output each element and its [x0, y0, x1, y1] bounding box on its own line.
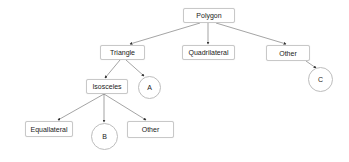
edge-polygon-triangle	[130, 23, 200, 44]
node-label: Isosceles	[92, 83, 121, 90]
node-equallateral: Equallateral	[25, 121, 73, 137]
edges-layer	[0, 0, 349, 162]
node-label: C	[318, 76, 323, 83]
edge-isosceles-equallateral	[58, 94, 104, 120]
node-label: Equallateral	[31, 126, 68, 133]
node-label: Triangle	[110, 49, 135, 56]
node-other-bottom: Other	[127, 121, 174, 138]
node-isosceles: Isosceles	[86, 79, 128, 94]
node-triangle: Triangle	[100, 45, 145, 60]
edge-other-c	[306, 61, 316, 68]
edge-triangle-a	[126, 60, 144, 76]
node-c: C	[308, 67, 333, 92]
node-label: A	[147, 84, 152, 91]
node-label: Quadrilateral	[188, 49, 228, 56]
edge-triangle-isosceles	[105, 60, 120, 78]
edge-isosceles-other	[104, 94, 146, 120]
node-label: B	[102, 133, 107, 140]
node-label: Polygon	[196, 12, 221, 19]
node-other-top: Other	[266, 45, 310, 61]
edge-polygon-other	[216, 23, 286, 44]
node-label: Other	[279, 50, 297, 57]
node-polygon: Polygon	[183, 8, 235, 23]
node-b: B	[91, 123, 118, 150]
node-a: A	[138, 76, 161, 99]
node-label: Other	[142, 126, 160, 133]
node-quadrilateral: Quadrilateral	[182, 45, 235, 60]
